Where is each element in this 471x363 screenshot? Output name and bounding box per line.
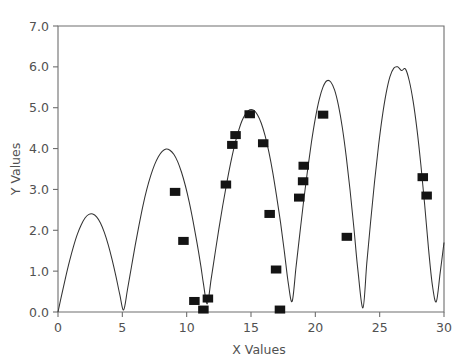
data-point-marker [230,131,241,139]
data-point-marker [318,111,329,119]
y-tick-label: 1.0 [29,264,49,279]
data-point-marker [275,306,286,314]
data-point-marker [264,210,275,218]
data-point-markers [170,110,432,313]
y-tick-label: 4.0 [29,141,49,156]
data-point-marker [342,233,353,241]
data-point-marker [170,188,181,196]
data-point-marker [227,141,238,149]
data-point-marker [221,181,232,189]
y-tick-label: 0.0 [29,305,49,320]
data-point-marker [189,297,200,305]
y-tick-label: 3.0 [29,182,49,197]
chart-figure: 0.01.02.03.04.05.06.07.0 051015202530 X … [0,0,471,363]
y-tick-label: 5.0 [29,100,49,115]
scatter-plot-canvas: 0.01.02.03.04.05.06.07.0 051015202530 X … [0,0,471,363]
x-tick-label: 25 [372,320,388,335]
data-point-marker [418,173,429,181]
x-tick-label: 20 [307,320,323,335]
data-point-marker [421,192,432,200]
fitted-curve-line [58,67,444,312]
x-tick-label: 15 [243,320,259,335]
x-tick-label: 30 [436,320,452,335]
x-axis-title: X Values [232,342,285,357]
data-point-marker [298,177,309,185]
x-tick-label: 5 [118,320,126,335]
x-tick-label: 0 [54,320,62,335]
plot-frame [58,26,444,312]
y-tick-label: 2.0 [29,223,49,238]
data-point-marker [271,266,282,274]
y-tick-label: 6.0 [29,59,49,74]
y-axis-title: Y Values [8,143,23,196]
x-tick-label: 10 [179,320,195,335]
y-tick-label: 7.0 [29,19,49,34]
data-point-marker [178,237,189,245]
data-point-marker [244,110,255,118]
x-axis: 051015202530 [54,312,452,335]
data-point-marker [198,306,209,314]
y-axis: 0.01.02.03.04.05.06.07.0 [29,19,58,320]
data-point-marker [203,295,214,303]
axis-frame [58,26,444,312]
data-point-marker [294,194,305,202]
data-point-marker [299,162,310,170]
data-point-marker [258,139,269,147]
